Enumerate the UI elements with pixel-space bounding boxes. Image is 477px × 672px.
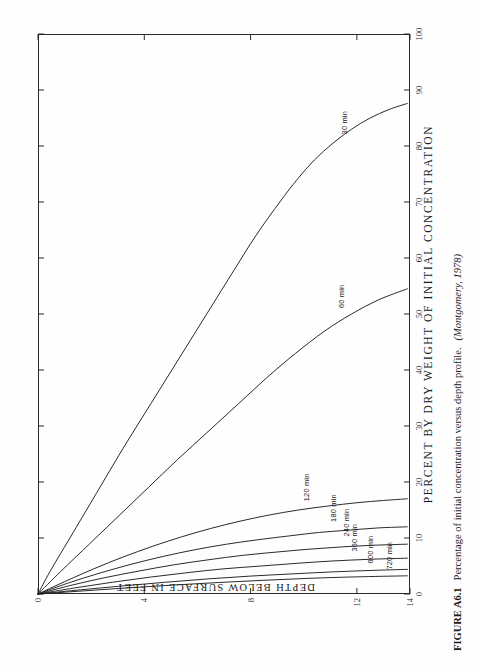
caption-label: FIGURE A6.1 <box>452 587 463 651</box>
y-tick-label: 4 <box>139 598 149 616</box>
x-tick-label: 30 <box>414 422 424 431</box>
x-tick-label: 40 <box>414 366 424 375</box>
y-tick-label: 14 <box>405 598 415 616</box>
curve-label-60-min: 60 min <box>336 285 345 308</box>
x-tick-label: 90 <box>414 86 424 95</box>
figure-plot-area: PERCENT BY DRY WEIGHT OF INITIAL CONCENT… <box>24 16 454 656</box>
x-tick-label: 0 <box>414 592 424 596</box>
curve-label-720-min: 720 min <box>384 542 393 570</box>
x-tick-label: 60 <box>414 254 424 263</box>
y-axis-title: DEPTH BELOW SURFACE IN FEET <box>50 582 380 593</box>
x-tick-label: 80 <box>414 142 424 151</box>
y-tick-label: 12 <box>351 598 361 616</box>
curve-label-600-min: 600 min <box>366 536 375 564</box>
chart-svg <box>38 34 410 594</box>
figure-caption: FIGURE A6.1 Percentage of initial concen… <box>439 0 475 672</box>
caption-text: Percentage of initial concentration vers… <box>452 347 463 580</box>
x-tick-label: 10 <box>414 534 424 543</box>
curve-label-180-min: 180 min <box>328 494 337 522</box>
x-tick-label: 70 <box>414 198 424 207</box>
x-tick-label: 100 <box>414 28 424 41</box>
x-tick-label: 20 <box>414 478 424 487</box>
curve-30-min <box>38 103 407 594</box>
curve-label-30-min: 30 min <box>339 111 348 134</box>
caption-source: (Montgomery, 1978) <box>452 254 463 340</box>
y-tick-label: 8 <box>245 598 255 616</box>
curve-label-120-min: 120 min <box>302 474 311 502</box>
page-canvas: PERCENT BY DRY WEIGHT OF INITIAL CONCENT… <box>0 0 477 672</box>
curve-label-360-min: 360 min <box>350 524 359 552</box>
y-tick-label: 0 <box>33 598 43 616</box>
x-tick-label: 50 <box>414 310 424 319</box>
